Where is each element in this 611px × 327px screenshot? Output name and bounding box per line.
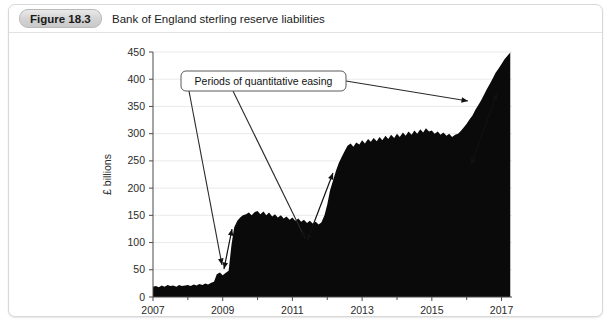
qe-round-3-leader-arrowhead bbox=[461, 97, 468, 103]
y-tick-label: 150 bbox=[127, 209, 145, 221]
x-tick-label: 2011 bbox=[281, 304, 304, 316]
x-tick-label: 2015 bbox=[420, 304, 444, 316]
qe-round-1-leader bbox=[189, 91, 222, 265]
x-tick-label: 2007 bbox=[141, 304, 165, 316]
y-tick-label: 400 bbox=[127, 73, 145, 85]
qe-round-2-arrowhead-top bbox=[328, 173, 333, 180]
qe-round-1-arrowhead-top bbox=[228, 229, 233, 236]
y-axis-ticks: 050100150200250300350400450 bbox=[127, 46, 153, 303]
qe-round-1-leader-arrowhead bbox=[218, 258, 224, 265]
y-tick-label: 0 bbox=[139, 291, 145, 303]
y-axis-title: £ billions bbox=[101, 154, 113, 195]
x-tick-label: 2013 bbox=[350, 304, 374, 316]
y-tick-label: 300 bbox=[127, 127, 145, 139]
y-tick-label: 450 bbox=[127, 46, 145, 58]
qe-round-3-leader bbox=[346, 81, 468, 101]
y-tick-label: 100 bbox=[127, 236, 145, 248]
x-tick-label: 2009 bbox=[211, 304, 235, 316]
qe-round-1-arrowhead-bottom bbox=[223, 262, 228, 269]
figure-header: Figure 18.3 Bank of England sterling res… bbox=[9, 5, 602, 33]
annotation-callout-label: Periods of quantitative easing bbox=[195, 75, 333, 87]
y-tick-label: 50 bbox=[133, 263, 145, 275]
figure-number-badge: Figure 18.3 bbox=[19, 9, 102, 28]
y-tick-label: 350 bbox=[127, 100, 145, 112]
reserve-liabilities-chart: 050100150200250300350400450 200720092011… bbox=[9, 33, 604, 317]
x-axis-ticks: 200720092011201320152017 bbox=[141, 297, 513, 316]
x-tick-label: 2017 bbox=[490, 304, 514, 316]
chart-area: 050100150200250300350400450 200720092011… bbox=[9, 33, 604, 317]
y-tick-label: 200 bbox=[127, 182, 145, 194]
y-tick-label: 250 bbox=[127, 154, 145, 166]
figure-card: Figure 18.3 Bank of England sterling res… bbox=[8, 4, 603, 317]
figure-title: Bank of England sterling reserve liabili… bbox=[112, 10, 325, 28]
